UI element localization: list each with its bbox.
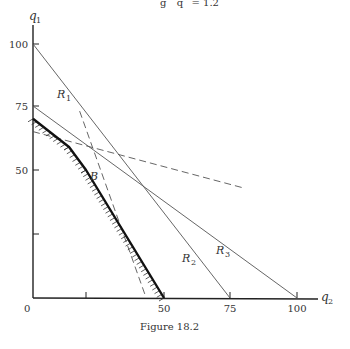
y-tick-label: 100 — [9, 39, 28, 50]
x-tick-label: 75 — [224, 303, 237, 314]
figure-canvas: g q = 1.2 50751005075100 q 1 q 2 0 R 1 R… — [0, 0, 350, 349]
x-tick-label: 100 — [287, 303, 306, 314]
x-axis-label-sub: 2 — [328, 297, 333, 306]
r2-label-sub: 2 — [191, 258, 196, 267]
r3-label: R — [215, 244, 224, 257]
x-axis — [33, 298, 318, 299]
y-axis-label-sub: 1 — [36, 16, 41, 25]
y-tick-label: 50 — [15, 165, 28, 176]
line-r1 — [33, 44, 230, 298]
x-tick-label: 50 — [158, 303, 171, 314]
point-b-label: B — [89, 170, 98, 183]
cut-off-header: g q = 1.2 — [160, 0, 219, 8]
plot-area: 50751005075100 — [9, 25, 318, 314]
r1-label-sub: 1 — [66, 94, 71, 103]
y-tick-label: 75 — [15, 101, 28, 112]
r1-label: R — [56, 88, 65, 101]
frontier-hatch — [28, 119, 33, 122]
figure-caption: Figure 18.2 — [140, 321, 199, 332]
steep-dashed-line — [80, 111, 146, 295]
line-r3 — [33, 106, 297, 298]
production-frontier — [33, 119, 164, 298]
r2-label: R — [181, 252, 190, 265]
r3-label-sub: 3 — [225, 250, 230, 259]
origin-label: 0 — [24, 303, 30, 314]
